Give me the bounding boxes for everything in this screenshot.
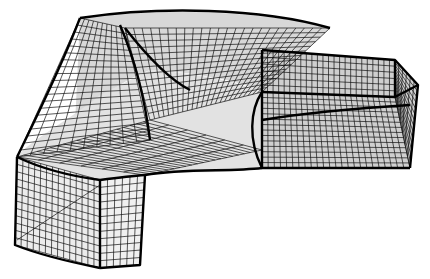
figure-canvas <box>0 0 430 279</box>
duct-mesh-wireframe <box>0 0 430 279</box>
